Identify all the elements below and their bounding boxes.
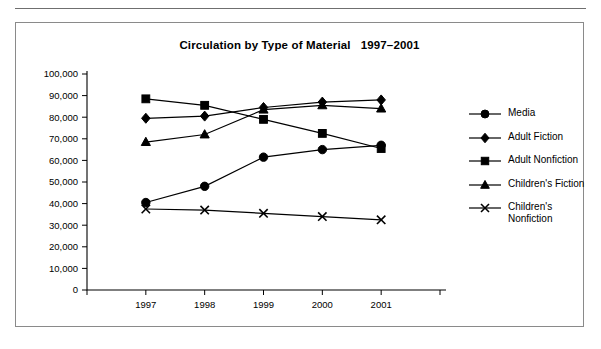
legend-item-circle[interactable]: Media [468, 107, 593, 120]
legend-item-label: Children's Nonfiction [508, 201, 552, 224]
chart-frame: Circulation by Type of Material 1997–200… [15, 22, 584, 327]
data-point-triangle [200, 130, 209, 138]
y-tick-label: 30,000 [49, 220, 78, 231]
data-point-diamond [481, 133, 489, 143]
y-tick-label: 10,000 [49, 263, 78, 274]
x-axis-ticks: 19971998199920002001 [87, 290, 440, 310]
x-marker-icon [468, 202, 502, 214]
x-tick-label: 1999 [253, 299, 274, 310]
x-tick-label: 2001 [371, 299, 392, 310]
circle-marker-icon [468, 108, 502, 120]
y-tick-label: 70,000 [49, 133, 78, 144]
data-point-circle [318, 145, 326, 153]
y-tick-label: 90,000 [49, 90, 78, 101]
x-tick-label: 1998 [194, 299, 215, 310]
legend-item-square[interactable]: Adult Nonfiction [468, 154, 593, 167]
legend-item-label: Adult Fiction [508, 131, 563, 143]
series-x [142, 205, 386, 224]
square-marker-icon [468, 155, 502, 167]
y-tick-label: 50,000 [49, 176, 78, 187]
y-tick-label: 40,000 [49, 198, 78, 209]
data-point-circle [481, 110, 489, 118]
chart-legend: MediaAdult FictionAdult NonfictionChildr… [468, 107, 593, 235]
top-divider-rule [15, 8, 586, 9]
data-point-square [201, 101, 209, 109]
data-point-square [318, 130, 326, 138]
y-tick-label: 60,000 [49, 155, 78, 166]
y-tick-label: 80,000 [49, 112, 78, 123]
y-tick-label: 100,000 [44, 68, 78, 79]
y-tick-label: 20,000 [49, 241, 78, 252]
diamond-marker-icon [468, 132, 502, 144]
series-circle [142, 141, 386, 207]
axes [87, 71, 446, 290]
legend-item-label: Children's Fiction [508, 178, 584, 190]
data-point-square [260, 115, 268, 123]
legend-item-diamond[interactable]: Adult Fiction [468, 131, 593, 144]
triangle-marker-icon [468, 179, 502, 191]
data-point-square [377, 145, 385, 153]
data-point-square [481, 157, 488, 164]
data-point-diamond [142, 113, 150, 123]
data-series-layer [141, 95, 385, 224]
legend-item-triangle[interactable]: Children's Fiction [468, 178, 593, 191]
x-tick-label: 1997 [135, 299, 156, 310]
data-point-diamond [200, 111, 209, 121]
legend-item-x[interactable]: Children's Nonfiction [468, 201, 593, 224]
y-axis-ticks: 010,00020,00030,00040,00050,00060,00070,… [44, 68, 87, 295]
legend-item-label: Media [508, 107, 535, 119]
data-point-circle [200, 182, 208, 190]
legend-item-label: Adult Nonfiction [508, 154, 578, 166]
data-point-circle [259, 153, 267, 161]
x-tick-label: 2000 [312, 299, 333, 310]
data-point-triangle [481, 180, 490, 188]
axis-lines [87, 71, 446, 290]
data-point-square [142, 95, 150, 103]
y-tick-label: 0 [73, 284, 78, 295]
